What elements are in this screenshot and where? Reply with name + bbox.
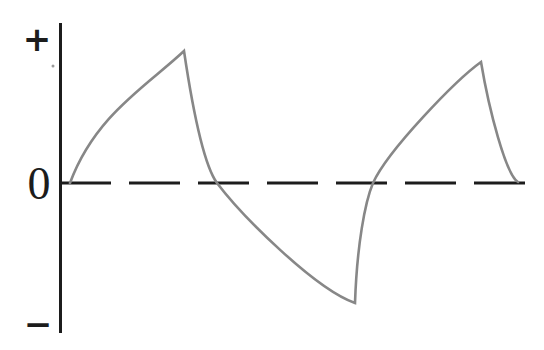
axis-tick-speck: [52, 65, 55, 68]
axis-label-zero: 0: [28, 161, 51, 207]
axis-label-plus: +: [23, 22, 52, 56]
axis-label-minus: −: [24, 307, 53, 341]
figure-canvas: + 0 −: [0, 0, 544, 350]
waveform-curve: [70, 51, 518, 303]
waveform-plot: [0, 0, 544, 350]
